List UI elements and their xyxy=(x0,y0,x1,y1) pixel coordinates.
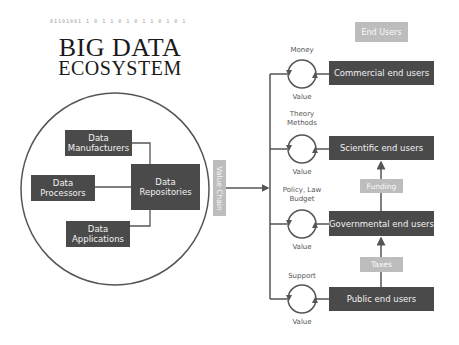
node-label: Processors xyxy=(40,188,85,198)
exchange-theory-methods-label: Theory Methods xyxy=(277,110,327,128)
node-data-applications[interactable]: DataApplications xyxy=(66,221,130,247)
value-chain-text: Value Chain xyxy=(215,166,224,210)
exchange-line: Theory xyxy=(277,110,327,119)
node-data-manufacturers[interactable]: DataManufacturers xyxy=(65,130,132,156)
node-label: Applications xyxy=(72,234,124,244)
taxes-label: Taxes xyxy=(360,257,403,272)
node-data-processors[interactable]: DataProcessors xyxy=(31,175,95,201)
exchange-value-label: Value xyxy=(277,318,327,327)
node-label: Data xyxy=(40,178,85,188)
commercial-end-users-box[interactable]: Commercial end users xyxy=(329,61,434,85)
public-end-users-box[interactable]: Public end users xyxy=(329,287,434,311)
node-label: Repositories xyxy=(139,187,191,197)
node-label: Data xyxy=(72,224,124,234)
exchange-line: Methods xyxy=(277,119,327,128)
funding-label: Funding xyxy=(360,179,403,193)
binary-decoration: 01101001 1 0 1 1 0 1 0 1 1 0 1 0 1 xyxy=(50,18,190,30)
governmental-end-users-box[interactable]: Governmental end users xyxy=(329,211,434,236)
title-line-2: ECOSYSTEM xyxy=(44,58,196,78)
exchange-value-label: Value xyxy=(277,243,327,252)
exchange-line: Budget xyxy=(272,195,332,204)
exchange-policy-budget-label: Policy, Law Budget xyxy=(272,186,332,204)
node-label: Data xyxy=(139,177,191,187)
node-label: Manufacturers xyxy=(68,143,129,153)
value-chain-label: Value Chain xyxy=(213,160,226,216)
node-label: Data xyxy=(68,133,129,143)
exchange-value-label: Value xyxy=(277,168,327,177)
exchange-money-label: Money xyxy=(277,46,327,55)
node-data-repositories[interactable]: DataRepositories xyxy=(131,164,200,210)
scientific-end-users-box[interactable]: Scientific end users xyxy=(329,136,434,160)
end-users-header: End Users xyxy=(355,22,408,42)
exchange-support-label: Support xyxy=(277,272,327,281)
exchange-value-label: Value xyxy=(277,93,327,102)
exchange-line: Policy, Law xyxy=(272,186,332,195)
